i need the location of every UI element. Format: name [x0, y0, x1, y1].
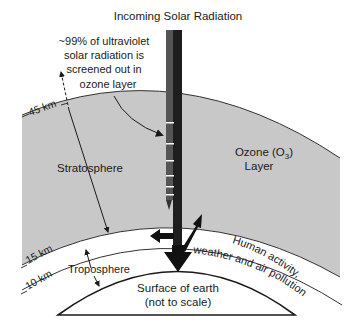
- atmosphere-diagram: Incoming Solar Radiation ~99% of ultravi…: [0, 0, 352, 331]
- troposphere-down-arrow: [94, 276, 99, 286]
- svg-text:~99% of ultraviolet: ~99% of ultraviolet: [59, 35, 150, 47]
- uv-annotation: ~99% of ultraviolet solar radiation is s…: [59, 35, 150, 90]
- not-to-scale-label: (not to scale): [145, 296, 212, 308]
- reflected-left-arrow: [150, 229, 174, 243]
- diagram-title: Incoming Solar Radiation: [114, 10, 243, 22]
- earth-surface-label: Surface of earth: [137, 282, 219, 294]
- svg-text:screened out in: screened out in: [66, 63, 141, 75]
- ozone-layer-label: Layer: [245, 160, 274, 172]
- stratosphere-label: Stratosphere: [57, 162, 123, 174]
- altitude-10km: 10 km: [23, 267, 54, 292]
- svg-text:solar radiation is: solar radiation is: [64, 49, 145, 61]
- svg-text:ozone layer: ozone layer: [80, 78, 137, 90]
- troposphere-label: Troposphere: [68, 263, 130, 275]
